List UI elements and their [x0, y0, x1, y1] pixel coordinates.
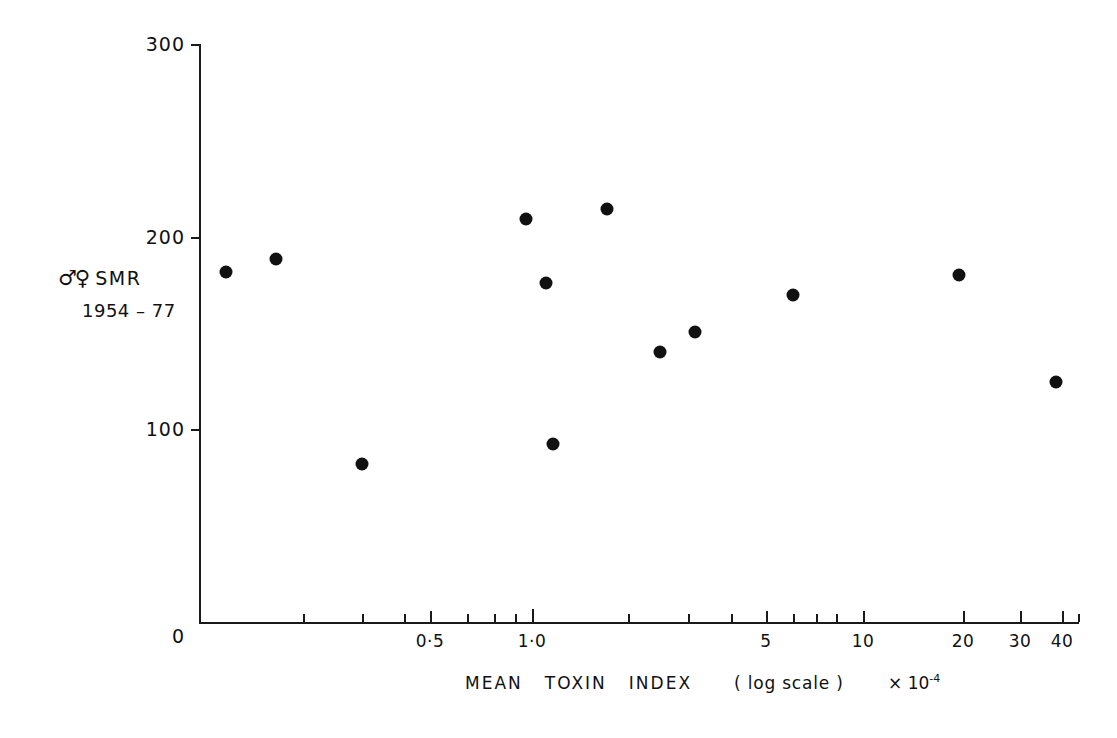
x-axis-title: MEANTOXININDEX( log scale )	[465, 673, 844, 693]
x-tick-0-5	[430, 611, 432, 622]
x-axis-title-logscale: ( log scale )	[734, 673, 844, 693]
x-tick-30	[1020, 611, 1022, 622]
scatter-point	[220, 266, 233, 279]
x-minor-tick	[303, 614, 305, 622]
scatter-point	[654, 346, 667, 359]
x-minor-tick	[793, 614, 795, 622]
scatter-point	[356, 458, 369, 471]
x-axis-title-word-mean: MEAN	[465, 673, 523, 693]
y-tick-label-0: 0	[125, 625, 185, 647]
x-axis-title-word-index: INDEX	[629, 673, 692, 693]
y-tick-300	[191, 44, 200, 46]
x-minor-tick	[362, 614, 364, 622]
x-minor-tick	[515, 614, 517, 622]
x-tick-label-20: 20	[936, 631, 990, 651]
x-axis-title-word-toxin: TOXIN	[545, 673, 607, 693]
y-tick-200	[191, 237, 200, 239]
gender-symbols-icon: ♂♀	[58, 266, 88, 290]
y-tick-label-300: 300	[125, 33, 185, 55]
y-tick-label-100: 100	[125, 418, 185, 440]
x-tick-5	[766, 611, 768, 622]
x-axis-exponent-power: -4	[929, 672, 940, 685]
x-minor-tick	[836, 614, 838, 622]
scatter-point	[520, 213, 533, 226]
x-axis-exponent: × 10-4	[888, 672, 940, 693]
x-tick-20	[963, 611, 965, 622]
y-axis-title: ♂♀SMR	[58, 258, 141, 298]
scatter-point	[547, 438, 560, 451]
x-minor-tick	[1078, 614, 1080, 622]
x-minor-tick	[816, 614, 818, 622]
x-tick-40	[1062, 611, 1064, 622]
scatter-point	[270, 253, 283, 266]
x-tick-10	[863, 611, 865, 622]
y-tick-100	[191, 429, 200, 431]
x-tick-label-5: 5	[739, 631, 793, 651]
y-tick-label-200: 200	[125, 226, 185, 248]
x-axis-line	[199, 622, 1079, 624]
x-minor-tick	[731, 614, 733, 622]
chart-canvas: 300 200 100 0 0·5 1·0 5 10 20 30 40 ♂♀SM…	[0, 0, 1117, 738]
x-minor-tick	[404, 614, 406, 622]
y-axis-year-range: 1954 – 77	[82, 300, 176, 321]
x-tick-label-40: 40	[1035, 631, 1089, 651]
y-axis-title-text: SMR	[95, 267, 141, 289]
x-minor-tick	[688, 614, 690, 622]
x-minor-tick	[494, 614, 496, 622]
x-axis-exponent-base: × 10	[888, 673, 929, 693]
scatter-point	[540, 277, 553, 290]
scatter-point	[689, 326, 702, 339]
scatter-point	[953, 269, 966, 282]
scatter-point	[1050, 376, 1063, 389]
x-minor-tick	[467, 614, 469, 622]
y-axis-line	[199, 44, 201, 624]
scatter-point	[601, 203, 614, 216]
x-minor-tick	[628, 614, 630, 622]
x-tick-1-0	[532, 609, 534, 624]
x-tick-label-0-5: 0·5	[403, 631, 457, 651]
x-tick-label-1-0: 1·0	[505, 631, 559, 651]
scatter-point	[787, 289, 800, 302]
x-tick-label-10: 10	[836, 631, 890, 651]
